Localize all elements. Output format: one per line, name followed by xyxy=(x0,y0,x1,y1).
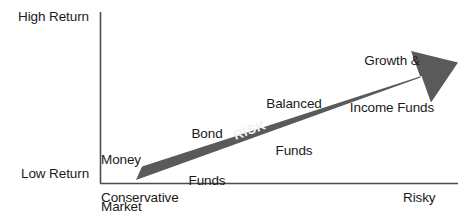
category-label-line2: Funds xyxy=(176,173,238,189)
risk-return-diagram: RISK High Return Low Return Conservative… xyxy=(0,0,465,222)
category-label-balanced-funds: Balanced Funds xyxy=(255,65,333,189)
category-label-line1: Bond xyxy=(176,126,238,142)
category-label-line1: Balanced xyxy=(255,96,333,112)
category-label-line2: Market xyxy=(101,199,142,215)
category-label-line1: Growth & xyxy=(337,53,447,69)
category-label-money-market: Money Market xyxy=(101,121,142,222)
category-label-bond-funds: Bond Funds xyxy=(176,95,238,219)
category-label-growth-income-funds: Growth & Income Funds xyxy=(337,22,447,146)
category-label-line2: Funds xyxy=(255,143,333,159)
category-label-line1: Money xyxy=(101,152,142,168)
axis-label-risky: Risky xyxy=(403,190,436,206)
category-label-line2: Income Funds xyxy=(337,100,447,116)
axis-label-low-return: Low Return xyxy=(21,166,89,182)
axis-label-high-return: High Return xyxy=(18,9,89,25)
